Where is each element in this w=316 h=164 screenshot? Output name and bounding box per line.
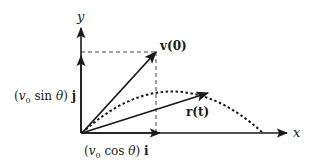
vertical-component-label: (v0 sin θ) j (14, 89, 76, 105)
y-axis-label: y (76, 9, 85, 24)
position-label: r(t) (186, 105, 209, 119)
horizontal-component-label: (v0 cos θ) i (84, 144, 149, 160)
initial-velocity-label: v(0) (159, 39, 187, 53)
x-axis-label: x (293, 125, 301, 140)
projectile-motion-diagram: y x v(0) r(t) (v0 sin θ) j (v0 cos θ) i (0, 0, 316, 164)
initial-velocity-label-text: v(0) (159, 39, 187, 53)
position-label-text: r(t) (186, 105, 209, 119)
trajectory-curve (82, 92, 263, 134)
